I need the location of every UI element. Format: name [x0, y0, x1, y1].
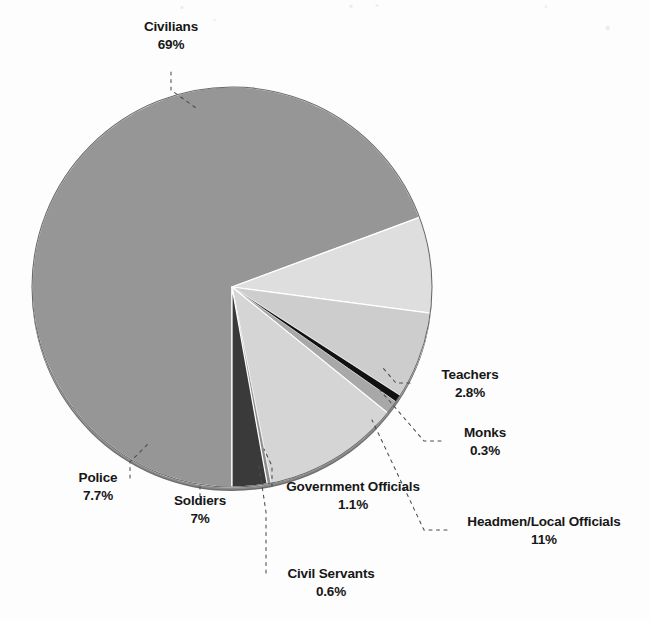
- slice-label-teachers: Teachers 2.8%: [424, 366, 516, 402]
- slice-label-monks-percent: 0.3%: [452, 442, 518, 460]
- slice-label-civil-servants-category: Civil Servants: [274, 565, 388, 583]
- slice-label-headmen-percent: 11%: [452, 531, 636, 549]
- slice-label-government-officials: Government Officials 1.1%: [279, 478, 427, 514]
- slice-label-headmen: Headmen/Local Officials 11%: [452, 513, 636, 549]
- slice-label-teachers-category: Teachers: [424, 366, 516, 384]
- slice-label-monks: Monks 0.3%: [452, 424, 518, 460]
- slice-label-civil-servants: Civil Servants 0.6%: [274, 565, 388, 601]
- slice-label-government-officials-percent: 1.1%: [279, 496, 427, 514]
- slice-label-soldiers-percent: 7%: [166, 510, 234, 528]
- slice-label-monks-category: Monks: [452, 424, 518, 442]
- slice-label-civilians-percent: 69%: [118, 36, 224, 54]
- slice-label-civilians: Civilians 69%: [118, 18, 224, 54]
- slice-label-police-category: Police: [68, 469, 128, 487]
- slice-label-soldiers: Soldiers 7%: [166, 492, 234, 528]
- slice-label-teachers-percent: 2.8%: [424, 384, 516, 402]
- slice-label-police-percent: 7.7%: [68, 487, 128, 505]
- chart-page: Civilians 69% Teachers 2.8% Monks 0.3% H…: [0, 0, 650, 619]
- slice-label-civilians-category: Civilians: [118, 18, 224, 36]
- slice-label-civil-servants-percent: 0.6%: [274, 583, 388, 601]
- slice-label-police: Police 7.7%: [68, 469, 128, 505]
- slice-label-headmen-category: Headmen/Local Officials: [452, 513, 636, 531]
- slice-label-government-officials-category: Government Officials: [279, 478, 427, 496]
- pie-slices: [32, 87, 432, 487]
- slice-label-soldiers-category: Soldiers: [166, 492, 234, 510]
